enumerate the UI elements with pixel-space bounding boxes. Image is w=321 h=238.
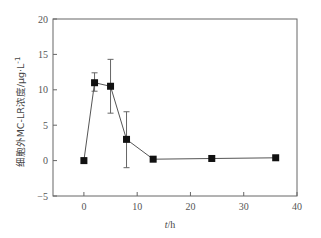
svg-text:细胞外MC-LR浓度/μg·L-1: 细胞外MC-LR浓度/μg·L-1 [14, 57, 26, 168]
y-tick-label: −5 [37, 191, 48, 202]
error-bars [92, 59, 130, 167]
square-marker [123, 136, 130, 143]
x-tick-label: 20 [185, 201, 195, 212]
y-tick-label: 0 [43, 155, 48, 166]
x-tick-label: 0 [81, 201, 86, 212]
x-tick-label: 10 [132, 201, 142, 212]
x-tick-label: 30 [239, 201, 249, 212]
x-axis-ticks: 010203040 [81, 192, 302, 212]
square-marker [208, 155, 215, 162]
square-marker [91, 79, 98, 86]
square-marker [150, 156, 157, 163]
x-axis-label: t/h [165, 219, 176, 230]
y-axis-label: 细胞外MC-LR浓度/μg·L-1 [14, 57, 26, 168]
y-axis-label-text: 细胞外MC-LR浓度/μg·L [15, 63, 26, 167]
data-line [84, 83, 276, 161]
y-tick-label: 10 [38, 84, 48, 95]
y-axis-label-superscript: -1 [14, 57, 22, 64]
square-marker [107, 83, 114, 90]
square-marker [272, 154, 279, 161]
series-polyline [84, 83, 276, 161]
plot-frame [53, 19, 297, 196]
chart: −505101520 010203040 t/h 细胞外MC-LR浓度/μg·L… [0, 0, 321, 238]
y-tick-label: 15 [38, 49, 48, 60]
y-axis-ticks: −505101520 [37, 14, 57, 202]
plot-border [53, 19, 297, 196]
y-tick-label: 5 [43, 120, 48, 131]
square-marker [80, 157, 87, 164]
x-tick-label: 40 [292, 201, 302, 212]
y-tick-label: 20 [38, 14, 48, 25]
